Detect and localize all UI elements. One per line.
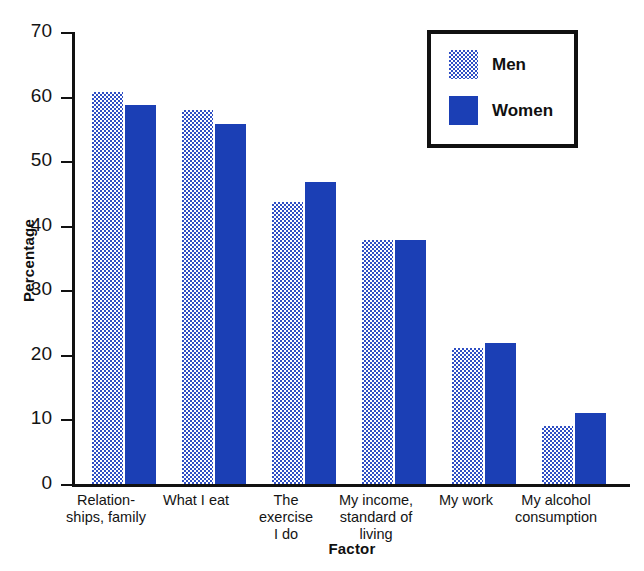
y-tick-label-40: 40 xyxy=(0,215,52,235)
y-tick-20: 20 xyxy=(61,355,72,357)
y-tick-30: 30 xyxy=(61,290,72,292)
legend-swatch-women-icon xyxy=(449,96,478,125)
y-axis-title: Percentage xyxy=(20,171,37,351)
x-axis-title: Factor xyxy=(0,540,644,557)
bar-women xyxy=(125,105,156,484)
y-tick-label-70: 70 xyxy=(0,21,52,41)
y-tick-label-10: 10 xyxy=(0,408,52,428)
y-tick-40: 40 xyxy=(61,226,72,228)
legend-item-men: Men xyxy=(449,50,526,79)
y-axis-line xyxy=(72,32,75,484)
bar-women xyxy=(485,343,516,484)
bar-women xyxy=(395,240,426,484)
y-tick-label-50: 50 xyxy=(0,150,52,170)
bar-chart: Percentage 70 60 50 40 30 20 10 0 xyxy=(0,0,644,571)
x-axis-line xyxy=(72,484,630,487)
y-tick-label-20: 20 xyxy=(0,344,52,364)
legend-item-women: Women xyxy=(449,96,553,125)
legend-swatch-men-icon xyxy=(449,50,478,79)
y-tick-label-0: 0 xyxy=(0,473,52,493)
y-tick-10: 10 xyxy=(61,419,72,421)
bar-men xyxy=(452,348,483,484)
y-tick-label-30: 30 xyxy=(0,279,52,299)
legend: Men Women xyxy=(427,30,578,148)
bar-women xyxy=(575,413,606,484)
legend-label-women: Women xyxy=(492,101,553,121)
bar-men xyxy=(362,240,393,484)
y-tick-0: 0 xyxy=(61,484,72,486)
y-tick-50: 50 xyxy=(61,161,72,163)
bar-men xyxy=(182,110,213,485)
legend-label-men: Men xyxy=(492,55,526,75)
y-tick-70: 70 xyxy=(61,32,72,34)
y-tick-label-60: 60 xyxy=(0,86,52,106)
bar-men xyxy=(92,92,123,484)
bar-men xyxy=(272,202,303,484)
bar-men xyxy=(542,426,573,484)
category-label: My alcoholconsumption xyxy=(482,492,630,526)
bar-women xyxy=(305,182,336,484)
y-tick-60: 60 xyxy=(61,97,72,99)
bar-women xyxy=(215,124,246,484)
